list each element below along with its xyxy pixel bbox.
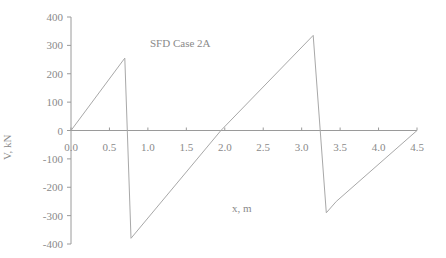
shear-force-diagram: 4003002001000-100-200-300-400 0.00.51.01…: [0, 0, 446, 258]
y-tick-label: -300: [43, 210, 64, 222]
x-tick-label: 3.0: [295, 141, 309, 153]
y-tick-label: 200: [47, 68, 64, 80]
y-tick-label: 100: [47, 96, 64, 108]
x-tick-label: 1.5: [179, 141, 193, 153]
x-axis-label: x, m: [232, 202, 252, 214]
chart-title: SFD Case 2A: [150, 37, 211, 49]
x-tick-label: 1.0: [141, 141, 155, 153]
x-axis: 0.00.51.01.52.02.53.03.54.04.5: [64, 128, 424, 153]
y-axis-label: V, kN: [1, 134, 13, 160]
y-tick-label: -400: [43, 238, 64, 250]
x-tick-label: 2.0: [218, 141, 232, 153]
y-tick-label: -100: [43, 153, 64, 165]
y-tick-label: 300: [47, 39, 64, 51]
y-tick-label: 400: [47, 11, 64, 23]
x-tick-label: 0.5: [103, 141, 117, 153]
x-tick-label: 2.5: [256, 141, 270, 153]
x-tick-label: 4.0: [372, 141, 386, 153]
x-tick-label: 0.0: [64, 141, 78, 153]
y-tick-label: 0: [58, 125, 64, 137]
y-tick-label: -200: [43, 181, 64, 193]
y-axis: 4003002001000-100-200-300-400: [43, 11, 71, 250]
x-tick-label: 3.5: [333, 141, 347, 153]
x-tick-label: 4.5: [410, 141, 424, 153]
